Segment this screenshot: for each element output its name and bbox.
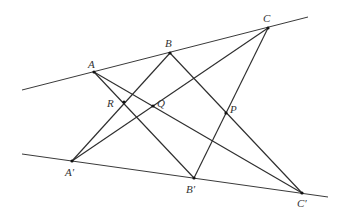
point-q xyxy=(151,104,154,107)
segment-A-Cp xyxy=(94,72,302,193)
label-b: B xyxy=(165,37,172,49)
label-c-prime: C′ xyxy=(297,197,307,209)
point-b-prime xyxy=(192,176,195,179)
label-b-prime: B′ xyxy=(186,183,196,195)
cross-segments xyxy=(72,28,302,193)
label-p: P xyxy=(229,103,237,115)
point-p xyxy=(224,111,227,114)
upper-line xyxy=(22,17,308,90)
point-a xyxy=(92,70,95,73)
points xyxy=(70,26,303,194)
point-c xyxy=(266,26,269,29)
pappus-diagram: ABCA′B′C′RQP xyxy=(0,0,343,216)
point-labels: ABCA′B′C′RQP xyxy=(64,12,307,209)
point-b xyxy=(168,51,171,54)
point-a-prime xyxy=(70,159,73,162)
label-a-prime: A′ xyxy=(64,166,75,178)
segment-B-Cp xyxy=(170,53,302,193)
point-c-prime xyxy=(300,191,303,194)
label-c: C xyxy=(263,12,271,24)
label-a: A xyxy=(87,58,95,70)
point-r xyxy=(122,100,125,103)
label-q: Q xyxy=(157,97,165,109)
label-r: R xyxy=(106,97,114,109)
